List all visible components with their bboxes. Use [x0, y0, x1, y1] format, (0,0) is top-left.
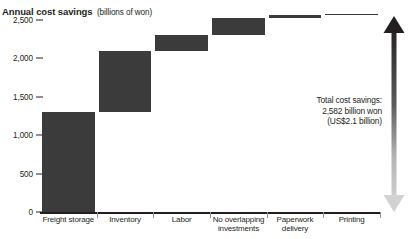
- y-tick-label: 2,000: [13, 54, 33, 63]
- category-label-inventory: Inventory: [97, 215, 154, 224]
- y-tick-0: 0: [29, 208, 40, 217]
- category-label-labor: Labor: [153, 215, 210, 224]
- annotation-line-2: 2,582 billion won: [316, 106, 382, 117]
- y-tick-2000: 2,000: [13, 54, 40, 63]
- y-tick-mark: [36, 96, 43, 97]
- bar-no-overlapping-investments: [212, 18, 265, 36]
- y-tick-1000: 1,000: [13, 131, 40, 140]
- y-tick-label: 1,000: [13, 131, 33, 140]
- total-range-arrow: [380, 14, 410, 214]
- total-savings-annotation: Total cost savings: 2,582 billion won (U…: [316, 95, 382, 127]
- bar-freight-storage: [42, 112, 95, 212]
- annotation-line-3: (US$2.1 billion): [316, 116, 382, 127]
- bar-paperwork-delivery: [269, 15, 322, 18]
- category-label-freight-storage: Freight storage: [40, 215, 97, 224]
- y-tick-label: 500: [20, 169, 33, 178]
- annotation-line-1: Total cost savings:: [316, 95, 382, 106]
- y-tick-mark: [36, 58, 43, 59]
- bar-inventory: [99, 51, 152, 112]
- bar-printing: [325, 14, 378, 16]
- y-tick-500: 500: [20, 169, 40, 178]
- y-tick-label: 0: [29, 208, 33, 217]
- waterfall-chart: Annual cost savings (billions of won) 0 …: [0, 0, 418, 239]
- double-arrow-icon: [380, 14, 410, 214]
- chart-subtitle: (billions of won): [97, 8, 152, 17]
- y-tick-label: 2,500: [13, 16, 33, 25]
- y-tick-mark: [36, 20, 43, 21]
- category-label-no-overlapping-investments: No overlapping investments: [208, 215, 269, 234]
- category-label-paperwork-delivery: Paperwork delivery: [267, 215, 324, 234]
- bar-labor: [155, 35, 208, 50]
- y-tick-1500: 1,500: [13, 92, 40, 101]
- y-tick-2500: 2,500: [13, 16, 40, 25]
- category-label-printing: Printing: [323, 215, 380, 224]
- y-tick-label: 1,500: [13, 92, 33, 101]
